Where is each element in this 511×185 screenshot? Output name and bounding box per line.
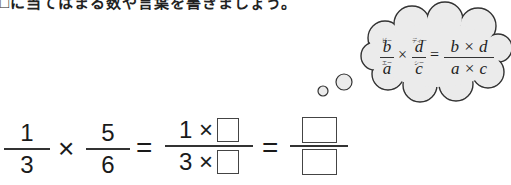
fraction-with-blanks: 1 × 3 ×: [165, 115, 253, 177]
blank-box-answer-numerator[interactable]: [302, 117, 337, 143]
answer-fraction: [290, 115, 348, 177]
fraction2-numerator: 5: [101, 118, 114, 148]
fraction3-numerator-text: 1 ×: [179, 116, 213, 144]
times-operator: ×: [58, 133, 74, 165]
ruby-b: ビー: [382, 32, 392, 49]
thought-bubble: [0, 0, 511, 185]
equals-operator-2: =: [262, 132, 278, 164]
fraction1-numerator: 1: [20, 118, 33, 148]
equals-operator-1: =: [136, 132, 152, 164]
fraction3-denominator: 3 ×: [179, 147, 239, 177]
blank-box-numerator-multiplier[interactable]: [217, 118, 239, 142]
fraction3-denominator-text: 3 ×: [179, 148, 213, 176]
fraction2-denominator: 6: [101, 150, 114, 180]
small-bubble-1: [318, 86, 328, 96]
fraction1-denominator: 3: [20, 150, 33, 180]
formula-result-denominator: a × c: [451, 60, 487, 77]
formula-equals: =: [430, 46, 439, 64]
formula-times: ×: [398, 46, 407, 64]
fraction3-numerator: 1 ×: [179, 115, 239, 145]
blank-box-answer-denominator[interactable]: [302, 149, 337, 175]
ruby-d: ディー: [412, 32, 427, 49]
formula-fraction-d-over-c: ディーd シーc: [412, 38, 426, 77]
ruby-c: シー: [414, 54, 424, 71]
formula-result-numerator: b × d: [451, 38, 488, 55]
ruby-a: エー: [382, 54, 392, 71]
small-bubble-2: [336, 74, 352, 90]
formula-fraction-b-over-a: ビーb エーa: [380, 38, 394, 77]
fraction-5-6: 5 6: [86, 118, 130, 180]
fraction-1-3: 1 3: [4, 118, 50, 180]
formula-result-fraction: b × d a × c: [444, 38, 494, 77]
blank-box-denominator-multiplier[interactable]: [217, 150, 239, 174]
multiplication-rule-formula: ビーb エーa × ディーd シーc = b × d a × c: [378, 30, 498, 88]
